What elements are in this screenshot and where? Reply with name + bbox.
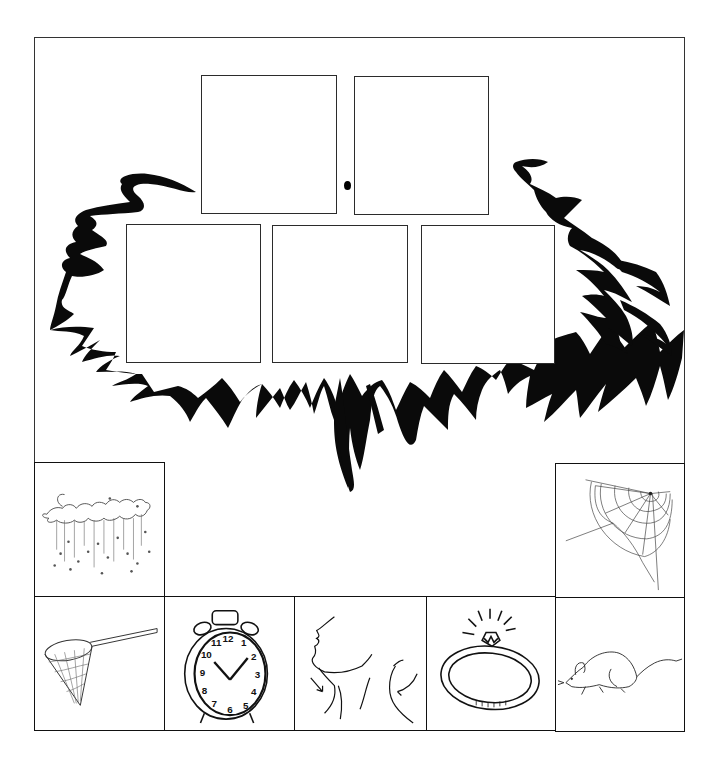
- clock-number-8: 8: [202, 685, 208, 696]
- neck-icon: [295, 597, 426, 730]
- clock-number-1: 1: [241, 637, 247, 648]
- answer-box-1[interactable]: [201, 75, 337, 214]
- clock-number-5: 5: [243, 700, 249, 711]
- clock-number-2: 2: [251, 651, 257, 662]
- separator-dot: [344, 181, 351, 190]
- answer-box-3[interactable]: [126, 224, 261, 363]
- picture-tile-neck[interactable]: [294, 596, 427, 731]
- ring-icon: [427, 597, 555, 730]
- picture-tile-rain[interactable]: [34, 462, 165, 597]
- butterfly-net-icon: [35, 597, 164, 730]
- spider-web-icon: [556, 464, 684, 597]
- picture-tile-ring[interactable]: [426, 596, 556, 731]
- clock-number-9: 9: [200, 667, 206, 678]
- clock-number-12: 12: [223, 633, 234, 644]
- clock-number-6: 6: [227, 704, 233, 715]
- picture-tile-net[interactable]: [34, 596, 165, 731]
- answer-box-2[interactable]: [354, 76, 489, 215]
- clock-number-11: 11: [211, 637, 222, 648]
- rain-cloud-icon: [35, 463, 164, 596]
- picture-tile-clock[interactable]: 12 1 2 3 4 5 6 7 8 9 10 11: [164, 596, 295, 731]
- clock-number-4: 4: [251, 687, 257, 698]
- answer-box-5[interactable]: [421, 225, 555, 364]
- answer-box-4[interactable]: [272, 225, 408, 363]
- clock-number-7: 7: [212, 698, 218, 709]
- rat-icon: [556, 598, 684, 731]
- picture-tile-rat[interactable]: [555, 597, 685, 732]
- clock-number-3: 3: [255, 669, 261, 680]
- alarm-clock-icon: 12 1 2 3 4 5 6 7 8 9 10 11: [165, 597, 294, 730]
- clock-number-10: 10: [201, 649, 212, 660]
- picture-tile-spider-web[interactable]: [555, 463, 685, 598]
